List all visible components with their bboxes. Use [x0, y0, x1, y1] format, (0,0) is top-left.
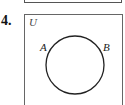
universe-label: U	[29, 16, 38, 28]
venn-diagram: U A B	[0, 0, 125, 105]
set-label-a: A	[39, 41, 47, 53]
set-label-b: B	[103, 41, 110, 53]
set-circle	[46, 36, 104, 94]
